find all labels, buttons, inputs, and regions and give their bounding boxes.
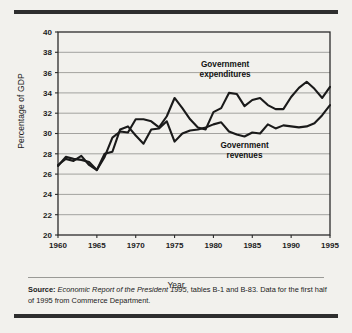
y-tick-label: 34 [43,89,52,98]
x-tick-label: 1975 [166,241,184,250]
y-tick-label: 32 [43,109,52,118]
y-tick-label: 26 [43,170,52,179]
x-tick-label: 1995 [321,241,339,250]
y-tick-label: 36 [43,69,52,78]
y-tick-label: 20 [43,231,52,240]
source-title: Economic Report of the President 1995 [58,285,187,294]
annotation-revenues: revenues [227,151,263,160]
y-tick-label: 38 [43,48,52,57]
x-tick-label: 1990 [282,241,300,250]
top-rule [14,10,338,14]
y-tick-label: 40 [43,28,52,37]
annotation-expenditures: Government [201,60,249,69]
y-tick-label: 30 [43,129,52,138]
y-tick-label: 22 [43,211,52,220]
y-tick-label: 24 [43,190,52,199]
x-tick-label: 1960 [49,241,67,250]
chart-plot-area: 2022242628303234363840196019651970197519… [0,18,352,243]
x-tick-label: 1980 [205,241,223,250]
x-tick-label: 1965 [88,241,106,250]
annotation-expenditures: expenditures [200,70,251,79]
x-tick-label: 1970 [127,241,145,250]
series-line-revenues [58,105,330,170]
y-tick-label: 28 [43,150,52,159]
annotation-revenues: Government [220,141,268,150]
bottom-rule [14,314,338,318]
source-note: Source: Economic Report of the President… [28,285,328,306]
figure-container: 2022242628303234363840196019651970197519… [0,0,352,333]
x-tick-label: 1985 [243,241,261,250]
y-axis-title: Percentage of GDP [16,56,26,166]
source-label: Source: [28,285,56,294]
source-divider [28,277,324,278]
line-chart: 2022242628303234363840196019651970197519… [0,18,352,270]
